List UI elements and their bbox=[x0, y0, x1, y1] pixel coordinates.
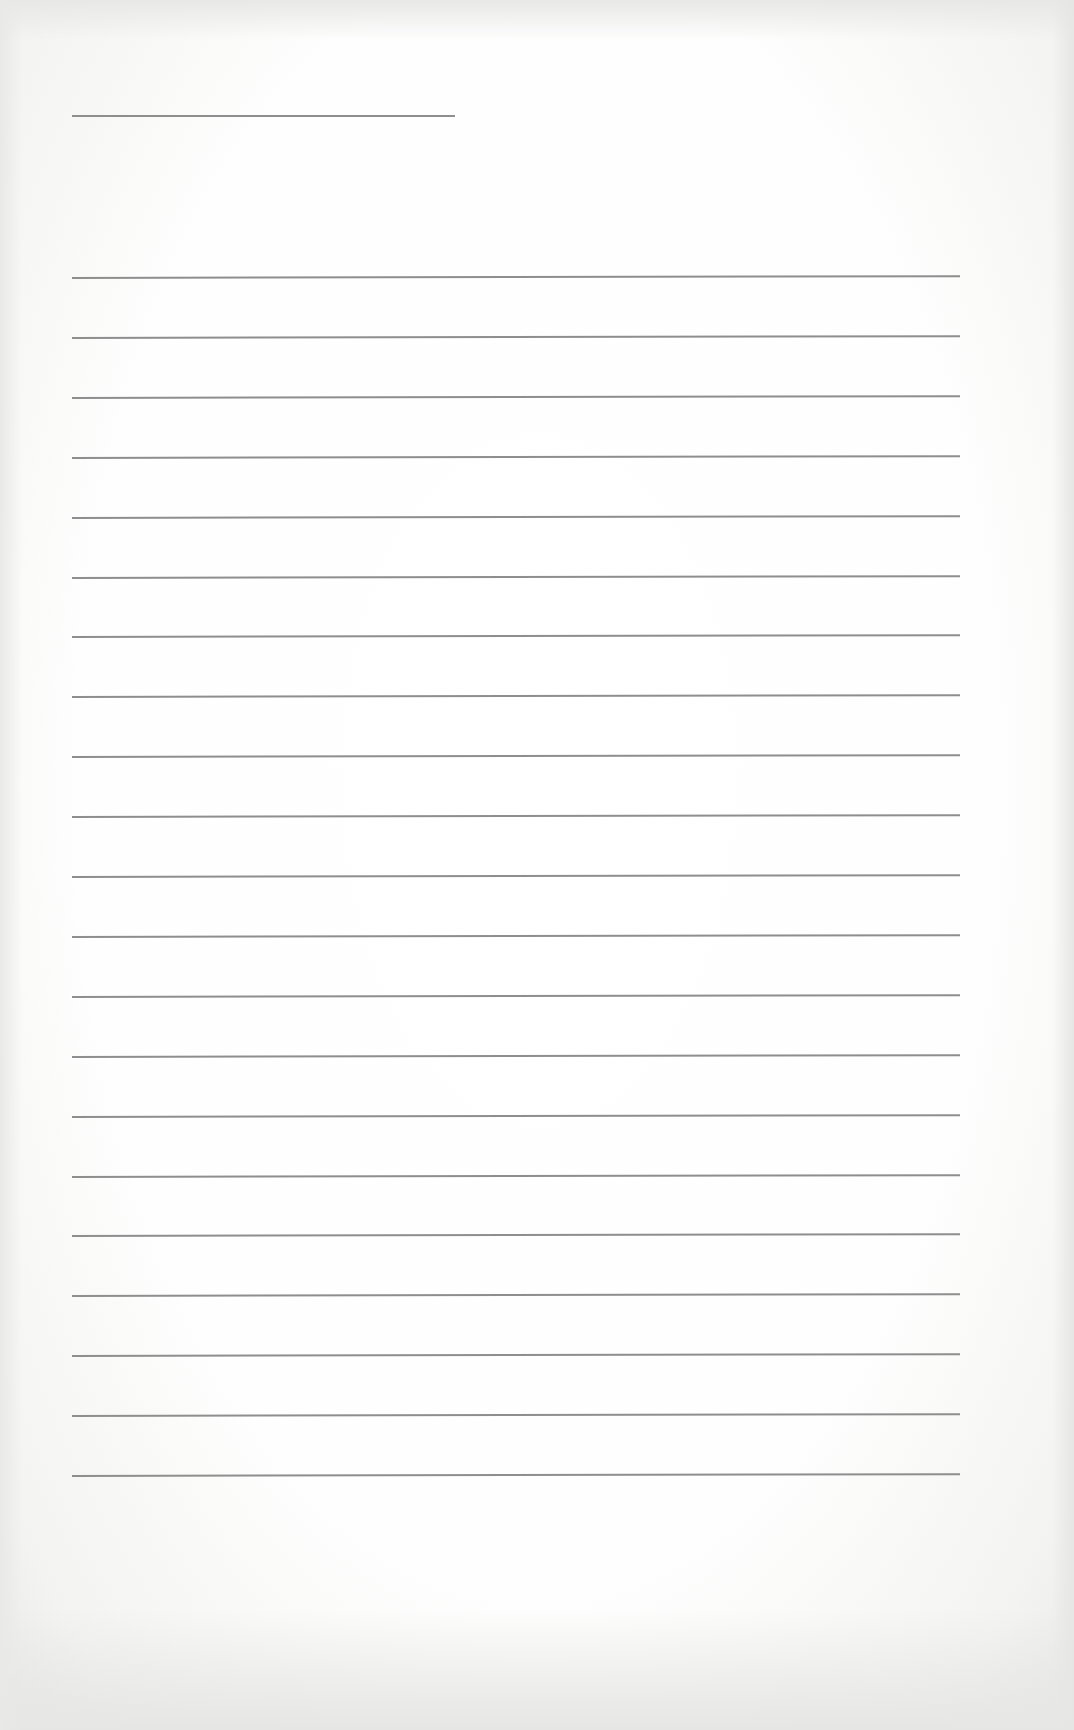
lined-paper-sheet bbox=[0, 0, 1074, 1730]
ruled-line bbox=[72, 754, 960, 758]
ruled-line bbox=[72, 1293, 960, 1297]
ruled-line bbox=[72, 934, 960, 938]
title-line bbox=[72, 115, 455, 117]
ruled-line bbox=[72, 634, 960, 638]
ruled-line bbox=[72, 814, 960, 818]
ruled-line bbox=[72, 515, 960, 519]
ruled-line bbox=[72, 335, 960, 339]
ruled-line bbox=[72, 694, 960, 698]
ruled-line bbox=[72, 874, 960, 878]
ruled-line bbox=[72, 1473, 960, 1477]
ruled-line bbox=[72, 455, 960, 459]
ruled-line bbox=[72, 1413, 960, 1417]
ruled-line bbox=[72, 575, 960, 579]
ruled-line bbox=[72, 994, 960, 998]
paper-edge-shadow-right bbox=[1052, 0, 1074, 1730]
ruled-line bbox=[72, 1114, 960, 1118]
ruled-line bbox=[72, 1174, 960, 1178]
paper-edge-shadow-bottom bbox=[0, 1610, 1074, 1730]
ruled-line bbox=[72, 395, 960, 399]
ruled-line bbox=[72, 1233, 960, 1237]
ruled-line bbox=[72, 275, 960, 279]
ruled-line bbox=[72, 1054, 960, 1058]
ruled-line bbox=[72, 1353, 960, 1357]
paper-edge-shadow-left bbox=[0, 0, 22, 1730]
paper-edge-shadow-top bbox=[0, 0, 1074, 40]
